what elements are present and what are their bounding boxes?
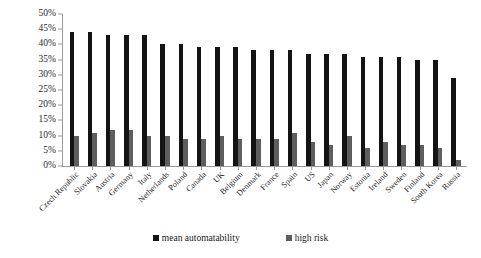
legend-label: mean automatability: [162, 233, 240, 243]
legend-label: high risk: [295, 233, 329, 243]
bar-group: [374, 14, 392, 166]
bar-group: [356, 14, 374, 166]
bar-group: [229, 14, 247, 166]
chart-legend: mean automatabilityhigh risk: [0, 233, 481, 243]
y-axis-tick-mark: [58, 74, 62, 75]
bar-high-risk: [165, 136, 170, 166]
x-axis-label-cell: Sweden: [392, 168, 410, 224]
x-axis-label-cell: Netherlands: [156, 168, 174, 224]
bar-group: [174, 14, 192, 166]
bar-high-risk: [183, 139, 188, 166]
bar-group: [392, 14, 410, 166]
automatability-bar-chart: 0%5%10%15%20%25%30%35%40%45%50% Czech Re…: [0, 0, 481, 258]
bar-group: [301, 14, 319, 166]
x-axis-label-cell: Slovakia: [83, 168, 101, 224]
y-axis-tick-mark: [58, 120, 62, 121]
x-axis-label-cell: Japan: [320, 168, 338, 224]
bar-series-container: [63, 14, 467, 166]
bar-group: [138, 14, 156, 166]
bar-group: [447, 14, 465, 166]
x-axis-label-cell: Ireland: [374, 168, 392, 224]
x-axis-label-cell: Canada: [192, 168, 210, 224]
y-axis-tick-mark: [58, 135, 62, 136]
bar-high-risk: [401, 145, 406, 166]
bar-high-risk: [147, 136, 152, 166]
bar-high-risk: [365, 148, 370, 166]
y-axis-tick-mark: [58, 59, 62, 60]
bar-group: [429, 14, 447, 166]
bar-high-risk: [347, 136, 352, 166]
bar-high-risk: [274, 139, 279, 166]
bar-high-risk: [220, 136, 225, 166]
y-axis-tick-mark: [58, 166, 62, 167]
x-axis-label-cell: Belgium: [229, 168, 247, 224]
bar-high-risk: [201, 139, 206, 166]
bar-group: [83, 14, 101, 166]
x-axis-label-cell: Poland: [174, 168, 192, 224]
legend-item[interactable]: high risk: [286, 233, 329, 243]
x-axis-label-cell: South Korea: [429, 168, 447, 224]
x-axis-label-cell: Germany: [120, 168, 138, 224]
bar-group: [411, 14, 429, 166]
bar-high-risk: [256, 139, 261, 166]
x-axis-tick-label: US: [303, 170, 317, 184]
bar-group: [120, 14, 138, 166]
x-axis-label-cell: Spain: [283, 168, 301, 224]
y-axis-tick-mark: [58, 44, 62, 45]
x-axis-category-labels: Czech RepublicSlovakiaAustriaGermanyItal…: [63, 168, 467, 224]
bar-group: [247, 14, 265, 166]
bar-high-risk: [420, 145, 425, 166]
y-axis-tick-mark: [58, 105, 62, 106]
x-axis-label-cell: Denmark: [247, 168, 265, 224]
x-axis-label-cell: US: [301, 168, 319, 224]
bar-high-risk: [74, 136, 79, 166]
plot-area: [63, 14, 467, 166]
bar-mean-automatability: [451, 78, 456, 166]
bar-high-risk: [238, 139, 243, 166]
legend-swatch-icon: [153, 235, 159, 241]
y-axis-tick-mark: [58, 14, 62, 15]
bar-high-risk: [311, 142, 316, 166]
bar-group: [156, 14, 174, 166]
bar-high-risk: [129, 130, 134, 166]
bar-high-risk: [110, 130, 115, 166]
x-axis-label-cell: Czech Republic: [65, 168, 83, 224]
x-axis-label-cell: Norway: [338, 168, 356, 224]
bar-group: [211, 14, 229, 166]
bar-high-risk: [383, 142, 388, 166]
legend-item[interactable]: mean automatability: [153, 233, 240, 243]
bar-group: [338, 14, 356, 166]
x-axis-label-cell: UK: [211, 168, 229, 224]
y-axis-tick-mark: [58, 90, 62, 91]
bar-group: [101, 14, 119, 166]
bar-high-risk: [292, 133, 297, 166]
bar-group: [265, 14, 283, 166]
x-axis-label-cell: Russia: [447, 168, 465, 224]
bar-high-risk: [438, 148, 443, 166]
legend-swatch-icon: [286, 235, 292, 241]
bar-high-risk: [92, 133, 97, 166]
y-axis-tick-mark: [58, 150, 62, 151]
bar-group: [320, 14, 338, 166]
y-axis-tick-mark: [58, 29, 62, 30]
bar-group: [65, 14, 83, 166]
x-axis-label-cell: France: [265, 168, 283, 224]
x-axis-label-cell: Estonia: [356, 168, 374, 224]
bar-high-risk: [329, 145, 334, 166]
bar-group: [192, 14, 210, 166]
bar-group: [283, 14, 301, 166]
